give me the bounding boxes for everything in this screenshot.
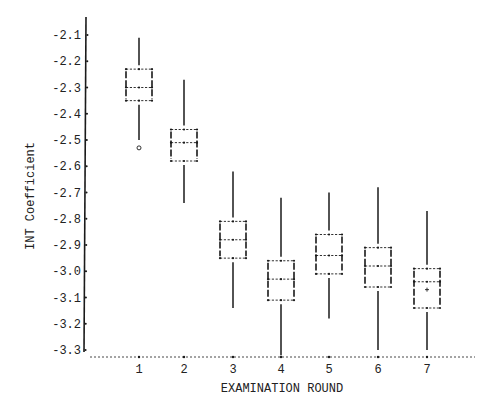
box-round-6: [364, 187, 392, 350]
box-dot: [328, 233, 330, 235]
box-dot: [183, 160, 185, 162]
box-dot: [219, 257, 221, 259]
box-dot: [341, 273, 343, 275]
y-tick-mark: [86, 139, 88, 141]
y-tick-label: -3.0: [52, 265, 81, 279]
box-dot: [151, 100, 153, 102]
box-dot: [232, 239, 234, 241]
box-plot-chart: -2.1-2.2-2.3-2.4-2.5-2.6-2.7-2.8-2.9-3.0…: [0, 0, 496, 415]
y-tick-mark: [85, 191, 87, 193]
x-tick-mark: [232, 356, 234, 358]
x-tick-mark: [426, 356, 428, 358]
box-dot: [245, 220, 247, 222]
y-tick-label: -3.1: [52, 292, 81, 306]
x-axis: 1234567: [90, 356, 475, 377]
y-tick-label: -2.7: [52, 187, 81, 201]
y-tick-mark: [86, 165, 88, 167]
outlier-marker: [137, 146, 141, 150]
box-dot: [196, 160, 198, 162]
x-tick-label: 5: [325, 363, 332, 377]
box-dot: [170, 160, 172, 162]
y-tick-label: -2.1: [52, 29, 81, 43]
box-dot: [280, 260, 282, 262]
x-tick-label: 2: [180, 363, 187, 377]
y-tick-mark: [85, 296, 87, 298]
box-dot: [151, 68, 153, 70]
box-dot: [232, 220, 234, 222]
y-tick-mark: [85, 323, 87, 325]
box-dot: [377, 265, 379, 267]
y-tick-mark: [85, 270, 87, 272]
box-dot: [364, 247, 366, 249]
y-axis-title: INT Coefficient: [24, 142, 38, 250]
box-dot: [377, 286, 379, 288]
box-dot: [183, 142, 185, 144]
box-dot: [138, 86, 140, 88]
y-axis-line: [84, 17, 86, 352]
box-dot: [315, 273, 317, 275]
box-dot: [138, 68, 140, 70]
y-tick-mark: [86, 60, 88, 62]
box-dot: [328, 254, 330, 256]
box-round-5: [315, 193, 343, 319]
box-dot: [328, 273, 330, 275]
x-tick-mark: [328, 356, 330, 358]
box-dot: [341, 233, 343, 235]
box-dot: [426, 268, 428, 270]
y-tick-mark: [86, 113, 88, 115]
box-dot: [125, 100, 127, 102]
box-dot: [364, 286, 366, 288]
box-dot: [196, 128, 198, 130]
x-axis-title: EXAMINATION ROUND: [221, 382, 343, 396]
box-round-1: [125, 38, 153, 150]
box-dot: [390, 286, 392, 288]
box-dot: [293, 299, 295, 301]
box-dot: [170, 128, 172, 130]
y-tick-mark: [84, 349, 86, 351]
box-dot: [280, 299, 282, 301]
box-round-7: [413, 211, 441, 350]
box-dot: [390, 247, 392, 249]
box-dot: [125, 68, 127, 70]
y-tick-label: -2.8: [52, 213, 81, 227]
y-tick-label: -3.2: [52, 318, 81, 332]
x-tick-mark: [280, 356, 282, 358]
y-tick-mark: [86, 34, 88, 36]
box-dot: [219, 220, 221, 222]
box-dot: [280, 278, 282, 280]
box-dot: [413, 307, 415, 309]
box-dot: [267, 260, 269, 262]
box-dot: [267, 299, 269, 301]
x-tick-mark: [138, 356, 140, 358]
box-round-2: [170, 80, 198, 203]
box-dot: [138, 100, 140, 102]
y-tick-label: -2.2: [52, 55, 81, 69]
box-dot: [439, 307, 441, 309]
box-dot: [293, 260, 295, 262]
x-tick-label: 3: [229, 363, 236, 377]
y-tick-mark: [85, 244, 87, 246]
box-dot: [232, 257, 234, 259]
box-dot: [439, 268, 441, 270]
box-series: [125, 38, 441, 356]
box-round-3: [219, 172, 247, 309]
box-dot: [377, 247, 379, 249]
x-tick-mark: [377, 356, 379, 358]
box-dot: [183, 128, 185, 130]
box-dot: [315, 233, 317, 235]
box-dot: [413, 268, 415, 270]
y-tick-mark: [86, 86, 88, 88]
x-tick-label: 4: [277, 363, 284, 377]
y-tick-label: -2.3: [52, 82, 81, 96]
y-tick-label: -3.3: [52, 344, 81, 358]
box-dot: [426, 281, 428, 283]
box-round-4: [267, 198, 295, 356]
x-tick-mark: [183, 356, 185, 358]
y-tick-label: -2.9: [52, 239, 81, 253]
x-tick-label: 7: [423, 363, 430, 377]
y-tick-mark: [85, 218, 87, 220]
x-tick-label: 6: [374, 363, 381, 377]
y-tick-label: -2.4: [52, 108, 81, 122]
y-tick-label: -2.6: [52, 160, 81, 174]
box-dot: [426, 307, 428, 309]
